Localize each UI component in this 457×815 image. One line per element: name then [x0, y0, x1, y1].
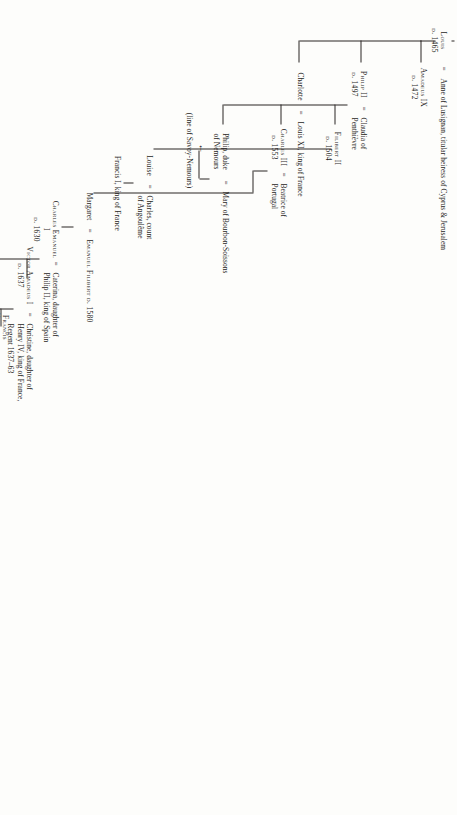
- node-mary-bourbon-soissons: Mary of Bourbon-Soissons: [220, 191, 229, 331]
- line-nemours-descent: [199, 178, 209, 179]
- genealogy-page: Louis d. 1465 = Anne of Lusignan, titula…: [0, 0, 457, 815]
- marriage-nemours-mary: =: [220, 180, 229, 184]
- marriage-va1-christine: =: [24, 312, 33, 316]
- marriage-charlotte-louis11: =: [295, 110, 304, 114]
- node-claudia: Claudia of Penthièvre: [348, 117, 367, 187]
- node-margaret: Margaret: [84, 186, 93, 226]
- node-charles-angouleme: Charles, count of Angoulême: [134, 195, 153, 261]
- node-charlotte: Charlotte: [295, 64, 304, 108]
- node-anne-lusignan: Anne of Lusignan, titular heiress of Cyp…: [438, 78, 447, 378]
- node-louise: Louise: [144, 148, 153, 182]
- line-gen4-join: [252, 170, 253, 192]
- node-amadeus9: Amadeus IX d. 1472: [408, 64, 427, 110]
- line-gen3-c: [222, 104, 223, 124]
- node-victor-amadeus1: Victor Amadeus I d. 1637: [14, 242, 33, 308]
- marriage-louis-anne: =: [438, 66, 447, 70]
- node-emanuel-filibert: Emanuel Filibert d. 1580: [84, 239, 93, 379]
- node-philip2: Philip II d. 1497: [348, 64, 367, 104]
- line-louis-descent: [421, 40, 435, 41]
- line-gen3-spine: [223, 104, 335, 105]
- line-gen2-b: [360, 40, 361, 62]
- line-gen2-c: [298, 40, 299, 62]
- line-emanuelfilibert-up: [93, 192, 253, 193]
- marriage-charles3-beatrice: =: [278, 172, 287, 176]
- node-charles-emanuel1: Charles Emanuel I d. 1630: [31, 200, 59, 258]
- node-caterina-spain: Caterina, daughter of Philip II, king of…: [40, 272, 59, 378]
- node-beatrice: Beatrice of Portugal: [268, 183, 287, 253]
- line-emanuelfilibert-descent: [61, 226, 73, 227]
- node-francis-hyacinth: Francis Hyacinth d. 1638: [0, 306, 9, 348]
- node-nemours-line-label: (line of Savoy-Nemours): [184, 100, 193, 200]
- line-gen2-a: [420, 40, 421, 62]
- line-charles3-descent: [253, 170, 267, 171]
- marriage-ce1-caterina: =: [50, 261, 59, 265]
- line-gen3-b: [280, 104, 281, 124]
- line-philip2-descent: [335, 104, 347, 105]
- node-philip-nemours: Philip, duke of Nemours: [210, 124, 229, 178]
- marriage-philip2-claudia: =: [358, 106, 367, 110]
- line-louise-descent: [123, 182, 133, 183]
- line-nemours-arrow-shaft: [198, 150, 199, 178]
- node-charles3: Charles III d. 1553: [268, 124, 287, 170]
- node-louis11: Louis XI, king of France: [295, 121, 304, 251]
- line-gen3-a: [334, 104, 335, 124]
- marriage-margaret-emanuelfilibert: =: [84, 228, 93, 232]
- louis-top-mark: [451, 40, 454, 41]
- line-filibert-to-louise: [153, 148, 331, 149]
- marriage-louise-charles: =: [144, 184, 153, 188]
- genealogy-plate: Louis d. 1465 = Anne of Lusignan, titula…: [0, 0, 457, 815]
